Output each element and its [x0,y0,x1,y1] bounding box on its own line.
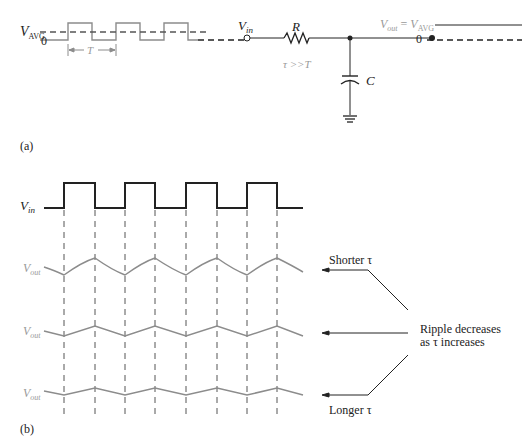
ground-symbol [343,116,357,122]
annotation-arrows [322,268,408,397]
vout-trace-medium-tau [44,326,303,336]
longer-tau-label: Longer τ [329,404,371,416]
ripple-label-line1: Ripple decreases [420,323,501,335]
panel-label-a: (a) [20,140,33,152]
timing-guide-lines [64,210,277,414]
vin-label-a: Vin [238,19,253,35]
resistor-symbol [284,33,309,43]
period-label: T [87,45,93,56]
diagram-canvas [0,0,526,442]
resistor-label: R [292,20,300,33]
vout-zero-label: 0 [416,33,422,45]
zero-label: 0 [41,35,47,47]
vout-trace-short-tau [44,258,303,275]
vout-equals-vavg-label: Vout = VAVG [380,18,434,33]
vout-trace-long-tau [44,388,303,395]
tau-condition-label: τ >>T [283,59,311,70]
panel-label-b: (b) [20,423,34,435]
vin-label-b: Vin [20,199,35,215]
vout-label-3: Vout [23,387,41,402]
capacitor-label: C [366,74,375,87]
vout-label-1: Vout [23,262,41,277]
shorter-tau-label: Shorter τ [329,254,372,266]
ripple-label-line2: as τ increases [420,336,485,348]
vout-label-2: Vout [23,325,41,340]
vin-square-wave [44,183,303,208]
vin-terminal [244,35,250,41]
